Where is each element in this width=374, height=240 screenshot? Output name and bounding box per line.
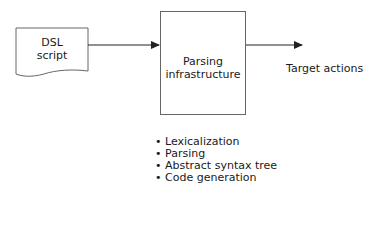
dsl-script-label: DSL script	[16, 36, 88, 62]
target-actions-label: Target actions	[286, 62, 363, 75]
parsing-infrastructure-label-line2: infrastructure	[160, 68, 246, 81]
parsing-infrastructure-label: Parsing infrastructure	[160, 55, 246, 81]
parsing-steps-list: Lexicalization Parsing Abstract syntax t…	[155, 136, 277, 184]
dsl-script-label-line1: DSL	[16, 36, 88, 49]
dsl-script-label-line2: script	[16, 49, 88, 62]
step-item: Code generation	[155, 172, 277, 184]
parsing-infrastructure-label-line1: Parsing	[160, 55, 246, 68]
